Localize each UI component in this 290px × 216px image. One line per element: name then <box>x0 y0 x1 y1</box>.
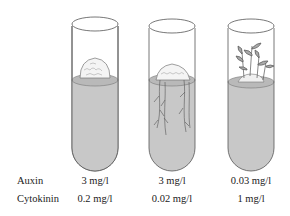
tube-roots-cytokinin: 0.02 mg/l <box>152 193 192 204</box>
callus-icon <box>238 74 264 82</box>
tube-roots-auxin: 3 mg/l <box>158 175 185 186</box>
tube-shoots <box>228 19 274 171</box>
medium <box>228 82 274 171</box>
tube-callus <box>72 17 118 171</box>
tube-callus-auxin: 3 mg/l <box>81 175 108 186</box>
cytokinin-label: Cytokinin <box>17 193 59 204</box>
tube-roots <box>149 19 195 171</box>
callus-icon <box>156 64 190 80</box>
tube-rim <box>228 19 274 33</box>
tube-shoots-cytokinin: 1 mg/l <box>237 193 264 204</box>
medium <box>72 80 118 171</box>
tube-rim <box>149 19 195 33</box>
tube-shoots-auxin: 0.03 mg/l <box>231 175 271 186</box>
tube-callus-cytokinin: 0.2 mg/l <box>77 193 112 204</box>
auxin-label: Auxin <box>17 175 43 186</box>
